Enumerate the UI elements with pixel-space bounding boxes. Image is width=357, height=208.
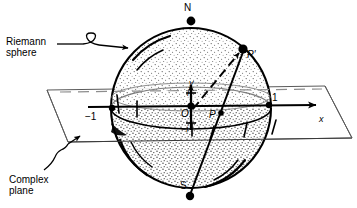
diagram-canvas bbox=[0, 0, 357, 208]
imaginary-unit-label: i bbox=[187, 88, 189, 98]
sphere-point-label: P′ bbox=[247, 49, 256, 60]
south-pole-label: S bbox=[180, 180, 187, 191]
point-south-pole bbox=[186, 192, 194, 200]
riemann-sphere-figure: Riemann sphere Complex plane N S P′ P O … bbox=[0, 0, 357, 208]
plane-point-label: P bbox=[209, 109, 216, 120]
point-plane-preimage bbox=[218, 110, 224, 116]
negative-imaginary-unit-label: −i bbox=[181, 124, 188, 134]
north-pole-label: N bbox=[184, 2, 191, 13]
riemann-sphere-leader bbox=[57, 33, 128, 48]
y-axis-label: y bbox=[189, 78, 194, 88]
origin-label: O bbox=[181, 108, 189, 119]
unit-minus-one-label: −1 bbox=[85, 111, 96, 122]
complex-plane-label: Complex plane bbox=[9, 174, 48, 196]
riemann-sphere-label: Riemann sphere bbox=[6, 36, 46, 58]
x-axis-label: x bbox=[319, 114, 324, 124]
point-minus-one bbox=[109, 105, 115, 111]
unit-one-label: 1 bbox=[272, 92, 278, 103]
point-north-pole bbox=[187, 17, 196, 26]
